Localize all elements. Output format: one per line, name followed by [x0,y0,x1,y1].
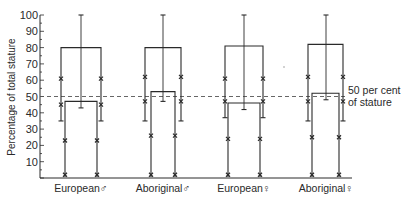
group-2 [223,15,266,177]
stature-proportion-chart: Percentage of total stature 102030405060… [0,0,413,199]
group-1 [143,15,184,177]
y-tick-label: 10 [26,156,38,168]
group-3 [306,15,346,177]
category-label-european-male: European♂ [54,182,107,194]
group-0 [59,15,104,177]
print-speck [283,66,285,68]
y-tick-label: 50 [26,91,38,103]
y-tick-label: 90 [26,25,38,37]
reference-label-line2: of stature [348,96,392,108]
y-axis-label: Percentage of total stature [6,38,17,156]
category-label-aboriginal-male: Aboriginal♂ [136,182,191,194]
y-tick-label: 80 [26,42,38,54]
y-tick-label: 70 [26,58,38,70]
y-tick-label: 60 [26,74,38,86]
y-tick-label: 30 [26,123,38,135]
y-tick-label: 20 [26,139,38,151]
y-tick-label: 40 [26,107,38,119]
reference-label-line1: 50 per cent [348,84,401,96]
y-axis: 102030405060708090100 [20,9,44,178]
category-label-european-female: European♀ [217,182,270,194]
category-label-aboriginal-female: Aboriginal♀ [299,182,354,194]
y-tick-label: 100 [20,9,38,21]
group-glyphs [59,15,346,177]
